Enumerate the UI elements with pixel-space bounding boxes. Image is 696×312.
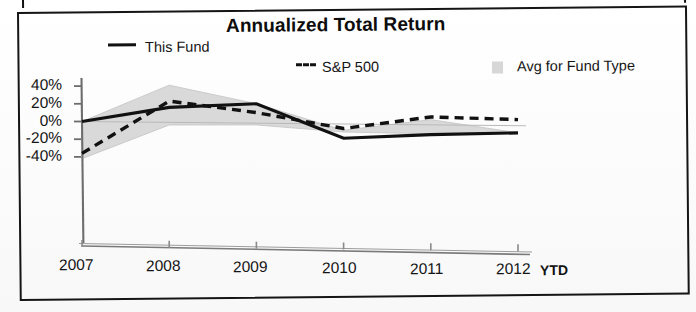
x-axis-label: 2008 [146, 257, 181, 275]
ytd-label: YTD [540, 262, 568, 278]
x-axis-label: 2009 [233, 258, 268, 276]
y-axis-label: -20% [0, 129, 62, 148]
x-axis-label: 2010 [322, 259, 357, 277]
y-axis-label: -40% [0, 147, 62, 166]
y-axis-label: 20% [0, 94, 62, 113]
y-axis-line [82, 78, 84, 243]
y-axis-label: 40% [0, 76, 62, 95]
x-axis-label: 2007 [59, 256, 94, 274]
chart-screenshot: Annualized Total Return This Fund S&P 50… [0, 0, 696, 312]
y-axis-label: 0% [0, 111, 62, 130]
x-axis-label: 2012 [496, 260, 531, 278]
x-axis-label: 2011 [410, 259, 444, 277]
